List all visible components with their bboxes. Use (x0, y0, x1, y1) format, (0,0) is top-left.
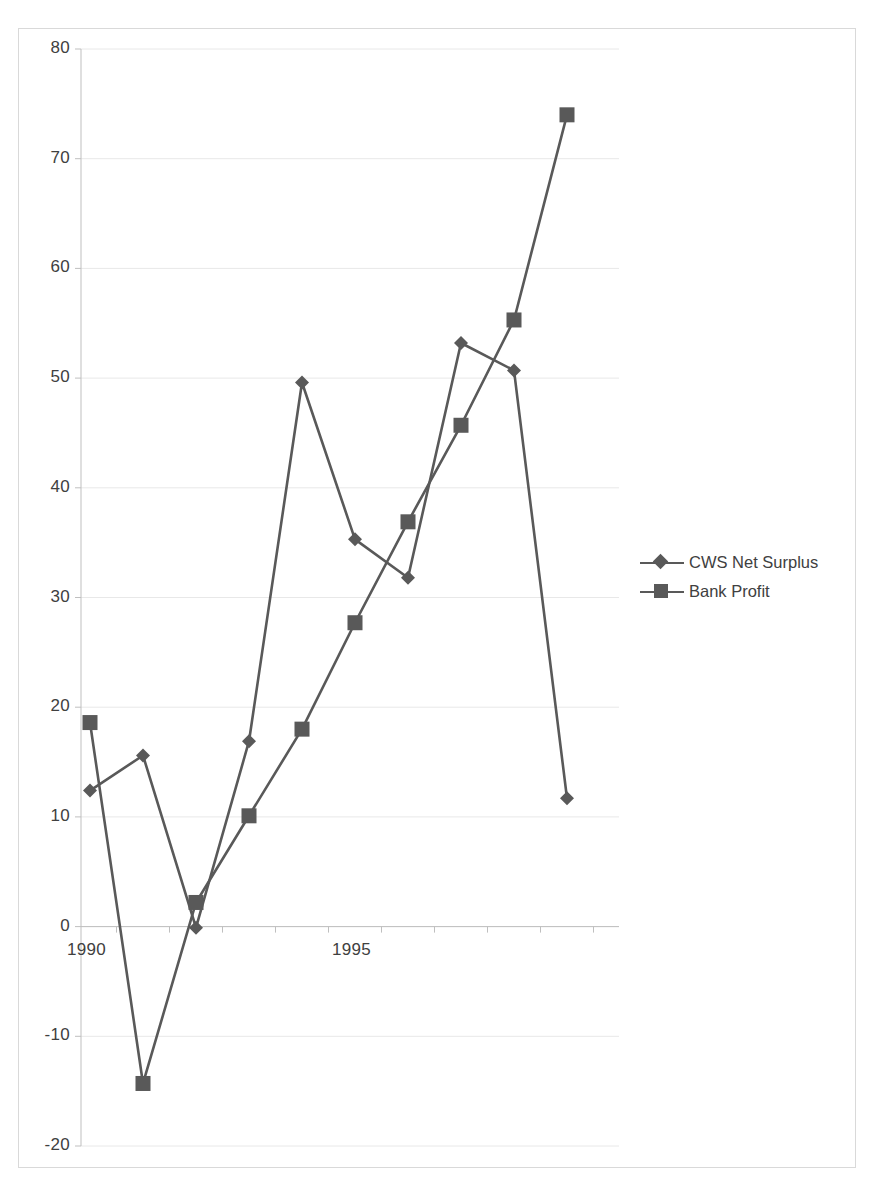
y-axis-label: 80 (24, 38, 70, 58)
x-axis-label: 1990 (67, 940, 106, 960)
data-point-marker-diamond (295, 375, 309, 389)
data-point-marker-square (136, 1076, 151, 1091)
data-point-marker-diamond (83, 784, 97, 798)
legend-item-cws-net-surplus[interactable]: CWS Net Surplus (640, 548, 818, 577)
data-point-marker-square (560, 107, 575, 122)
y-axis-label: 20 (24, 696, 70, 716)
series-line-cws-net-surplus (90, 343, 567, 928)
y-axis-label: 50 (24, 367, 70, 387)
data-point-marker-square (189, 895, 204, 910)
legend-marker-diamond-icon (640, 553, 684, 573)
data-point-marker-square (507, 312, 522, 327)
legend-item-bank-profit[interactable]: Bank Profit (640, 577, 818, 606)
legend-label-bank-profit: Bank Profit (689, 582, 770, 601)
data-point-marker-square (242, 808, 257, 823)
data-point-marker-square (83, 715, 98, 730)
y-axis-label: 40 (24, 477, 70, 497)
data-point-marker-square (348, 615, 363, 630)
y-axis-label: 30 (24, 587, 70, 607)
data-point-marker-diamond (560, 791, 574, 805)
y-axis-label: -10 (24, 1025, 70, 1045)
y-tickmarks-group (75, 49, 81, 1146)
data-point-marker-square (454, 418, 469, 433)
data-point-marker-diamond (136, 748, 150, 762)
y-axis-label: -20 (24, 1135, 70, 1155)
series-markers-group (83, 107, 575, 1091)
data-point-marker-diamond (507, 363, 521, 377)
y-axis-label: 0 (24, 916, 70, 936)
data-point-marker-square (295, 722, 310, 737)
data-point-marker-diamond (454, 336, 468, 350)
series-line-bank-profit (90, 115, 567, 1084)
data-point-marker-diamond (242, 734, 256, 748)
legend-label-cws-net-surplus: CWS Net Surplus (689, 553, 818, 572)
x-axis-label: 1995 (332, 940, 371, 960)
y-axis-label: 10 (24, 806, 70, 826)
y-axis-label: 60 (24, 257, 70, 277)
series-lines-group (90, 115, 567, 1084)
chart-legend: CWS Net Surplus Bank Profit (640, 548, 818, 606)
y-axis-label: 70 (24, 148, 70, 168)
data-point-marker-square (401, 514, 416, 529)
gridlines-group (81, 49, 619, 1146)
chart-page: 80706050403020100-10-20 19901995 CWS Net… (0, 0, 874, 1194)
legend-marker-square-icon (640, 582, 684, 602)
